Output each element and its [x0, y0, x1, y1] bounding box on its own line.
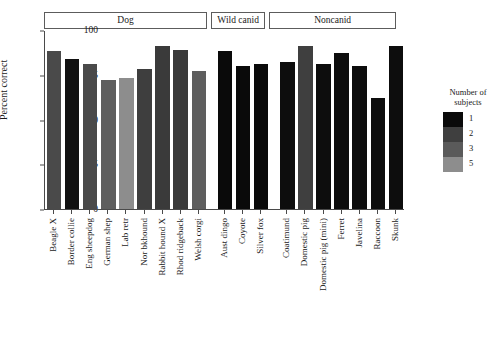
legend-label: 2 — [469, 129, 473, 139]
legend-swatch — [443, 127, 463, 142]
x-tick-mark — [71, 210, 72, 214]
bar[interactable] — [298, 46, 312, 209]
bar-slot — [81, 64, 99, 209]
x-tick-mark — [144, 210, 145, 214]
x-tick-label: Domestic pig (mini) — [318, 218, 327, 291]
legend-entry[interactable]: 5 — [443, 157, 499, 172]
bar[interactable] — [316, 64, 330, 209]
bar[interactable] — [65, 59, 79, 209]
x-tick-mark — [304, 210, 305, 214]
x-tick-label: Ferret — [336, 218, 345, 240]
bar[interactable] — [83, 64, 97, 209]
x-tick-label: Beagle X — [49, 218, 58, 252]
x-tick-label: Aust dingo — [220, 218, 229, 258]
x-tick-label: Coyote — [238, 218, 247, 244]
x-tick-label: German shep — [103, 218, 112, 266]
bar-slot — [216, 51, 234, 209]
bar-slot — [252, 64, 270, 209]
legend-entries: 1235 — [443, 112, 499, 172]
x-tick-mark — [125, 210, 126, 214]
x-tick-label: Skunk — [390, 218, 399, 241]
bar-slot — [296, 46, 314, 209]
legend-swatch — [443, 142, 463, 157]
bar[interactable] — [218, 51, 232, 209]
x-tick-label: Welsh corgi — [193, 218, 202, 261]
bar-slot — [99, 80, 117, 209]
x-tick-label: Domestic pig — [300, 218, 309, 266]
x-tick-mark — [341, 210, 342, 214]
bar[interactable] — [192, 71, 206, 209]
bar[interactable] — [389, 46, 403, 209]
x-tick-mark — [53, 210, 54, 214]
bar-slot — [172, 50, 190, 209]
bar-slot — [314, 64, 332, 209]
legend: Number of subjects 1235 — [437, 88, 499, 172]
y-axis-label: Percent correct — [0, 60, 9, 120]
bar[interactable] — [334, 53, 348, 209]
x-tick-label: Border collie — [67, 218, 76, 265]
panel-strip-wild-canid: Wild canid — [211, 12, 265, 29]
bar[interactable] — [371, 98, 385, 209]
x-tick-mark — [377, 210, 378, 214]
bar-slot — [63, 59, 81, 209]
bar[interactable] — [254, 64, 268, 209]
bar-slot — [387, 46, 405, 209]
bar[interactable] — [173, 50, 187, 209]
x-tick-mark — [224, 210, 225, 214]
x-tick-mark — [242, 210, 243, 214]
x-tick-mark — [198, 210, 199, 214]
legend-entry[interactable]: 2 — [443, 127, 499, 142]
panel-dog — [45, 31, 208, 209]
bar-slot — [45, 51, 63, 209]
bar[interactable] — [155, 46, 169, 209]
legend-entry[interactable]: 3 — [443, 142, 499, 157]
legend-swatch — [443, 112, 463, 127]
x-tick-mark — [260, 210, 261, 214]
legend-label: 3 — [469, 144, 473, 154]
bar[interactable] — [47, 51, 61, 209]
bar-slot — [190, 71, 208, 209]
figure: DogWild canidNoncanid Percent correct 02… — [0, 0, 504, 339]
bar[interactable] — [236, 66, 250, 209]
bar-slot — [333, 53, 351, 209]
x-tick-mark — [359, 210, 360, 214]
legend-entry[interactable]: 1 — [443, 112, 499, 127]
x-tick-label: Eng sheepdog — [85, 218, 94, 269]
bar[interactable] — [101, 80, 115, 209]
bar[interactable] — [280, 62, 294, 209]
x-tick-mark — [395, 210, 396, 214]
bar[interactable] — [119, 78, 133, 209]
x-tick-label: Silver fox — [256, 218, 265, 254]
x-tick-mark — [107, 210, 108, 214]
bar-slot — [135, 69, 153, 209]
bar-slot — [234, 66, 252, 209]
x-tick-mark — [162, 210, 163, 214]
bar[interactable] — [352, 66, 366, 209]
bar-slot — [154, 46, 172, 209]
bar-slot — [351, 66, 369, 209]
x-tick-label: Raccoon — [372, 218, 381, 250]
x-tick-label: Rabbit hound X — [157, 218, 166, 276]
x-tick-label: Coatimund — [282, 218, 291, 258]
x-tick-mark — [180, 210, 181, 214]
legend-title: Number of subjects — [437, 88, 499, 108]
x-tick-label: Lab retr — [121, 218, 130, 247]
legend-label: 5 — [469, 159, 473, 169]
bar-slot — [117, 78, 135, 209]
bar-slot — [369, 98, 387, 209]
x-tick-label: Nor bkhound — [139, 218, 148, 266]
x-tick-label: Javelina — [354, 218, 363, 248]
bar-slot — [278, 62, 296, 209]
x-tick-mark — [286, 210, 287, 214]
panel-wild-canid — [216, 31, 270, 209]
x-tick-mark — [323, 210, 324, 214]
x-tick-mark — [89, 210, 90, 214]
panel-noncanid — [278, 31, 405, 209]
bar[interactable] — [137, 69, 151, 209]
legend-swatch — [443, 157, 463, 172]
panel-strip-noncanid: Noncanid — [269, 12, 396, 29]
plot-area — [44, 31, 404, 210]
legend-label: 1 — [469, 114, 473, 124]
x-tick-label: Rhod ridgeback — [175, 218, 184, 275]
